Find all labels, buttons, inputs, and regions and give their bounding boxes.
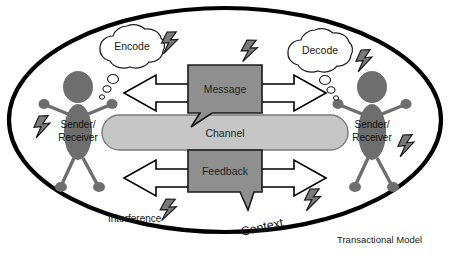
decode-bubble-1: [320, 76, 331, 85]
encode-bubble-1: [108, 75, 119, 84]
person-left-label-line1: Sender/: [60, 119, 95, 130]
person-right-head: [357, 71, 387, 103]
person-left-hand-right: [107, 99, 118, 109]
feedback-label: Feedback: [202, 165, 249, 177]
person-left-foot-right: [93, 182, 105, 192]
message-label: Message: [204, 83, 247, 95]
diagram-canvas: Message Feedback Channel Sender/ Receive…: [0, 0, 451, 257]
person-left-label-line2: Receiver: [58, 132, 98, 143]
person-right-hand-right: [401, 99, 412, 109]
person-left-foot-left: [55, 182, 67, 192]
person-right-label-line2: Receiver: [352, 132, 392, 143]
person-right-label-line1: Sender/: [354, 119, 389, 130]
person-right-foot-right: [387, 182, 399, 192]
person-right-hand-left: [333, 99, 344, 109]
person-right-foot-left: [349, 182, 361, 192]
encode-bubble-3: [99, 95, 104, 99]
interference-label: Interference: [108, 213, 162, 224]
decode-bubble-3: [333, 96, 338, 100]
transactional-model-diagram: Message Feedback Channel Sender/ Receive…: [0, 0, 451, 257]
person-left-head: [63, 71, 93, 103]
decode-bubble-2: [327, 87, 335, 94]
encode-bubble-2: [103, 86, 111, 93]
person-left-hand-left: [39, 99, 50, 109]
decode-label: Decode: [302, 44, 338, 56]
encode-label: Encode: [114, 40, 150, 52]
diagram-caption: Transactional Model: [337, 234, 422, 245]
channel-label: Channel: [205, 127, 244, 139]
